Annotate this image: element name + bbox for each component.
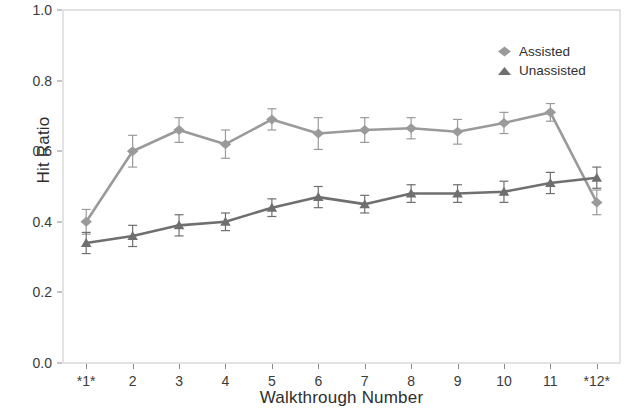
x-tick-label: *12* [584,373,610,389]
y-tick-label: 0.8 [18,73,52,89]
x-tick-mark [458,364,459,369]
x-tick-mark [597,364,598,369]
diamond-marker-icon [497,45,512,58]
y-tick-mark [57,292,62,293]
y-tick-label: 0.2 [18,284,52,300]
y-tick-mark [57,80,62,81]
y-tick-mark [57,151,62,152]
legend-label-unassisted: Unassisted [519,64,586,78]
diamond-marker [313,129,325,139]
series-group [80,104,602,254]
y-tick-mark [57,10,62,11]
x-tick-mark [86,364,87,369]
diamond-marker [591,197,603,207]
x-tick-mark [272,364,273,369]
x-tick-label: *1* [77,373,96,389]
x-tick-mark [411,364,412,369]
legend-label-assisted: Assisted [519,45,570,59]
y-tick-label: 0.4 [18,214,52,230]
diamond-marker [173,125,185,135]
legend: Assisted Unassisted [497,42,586,80]
series-line [86,112,597,221]
legend-item-assisted: Assisted [497,42,586,61]
series-assisted [80,104,602,235]
x-tick-label: 9 [454,373,462,389]
x-tick-mark [179,364,180,369]
x-tick-mark [318,364,319,369]
diamond-marker [545,107,557,117]
x-tick-mark [550,364,551,369]
x-tick-mark [365,364,366,369]
x-tick-label: 10 [496,373,512,389]
x-tick-label: 5 [268,373,276,389]
diamond-marker [127,146,139,156]
x-tick-mark [133,364,134,369]
x-tick-label: 3 [175,373,183,389]
series-unassisted [81,167,602,253]
y-tick-mark [57,363,62,364]
diamond-marker [405,123,417,133]
legend-item-unassisted: Unassisted [497,61,586,80]
y-tick-label: 0.6 [18,143,52,159]
x-tick-label: 7 [361,373,369,389]
y-tick-label: 0.0 [18,355,52,371]
x-tick-label: 2 [129,373,137,389]
diamond-marker [498,118,510,128]
hit-ratio-line-chart: Hit Ratio Walkthrough Number 0.00.20.40.… [0,0,634,408]
x-tick-mark [225,364,226,369]
series-line [86,178,597,243]
diamond-marker [80,217,92,227]
x-axis-title: Walkthrough Number [63,388,620,408]
y-tick-mark [57,221,62,222]
x-tick-mark [504,364,505,369]
x-tick-label: 4 [222,373,230,389]
x-tick-label: 11 [543,373,558,389]
diamond-marker [359,125,371,135]
triangle-marker-icon [497,64,512,77]
y-tick-label: 1.0 [18,2,52,18]
diamond-marker [452,127,464,137]
x-tick-label: 8 [407,373,415,389]
x-tick-label: 6 [314,373,322,389]
